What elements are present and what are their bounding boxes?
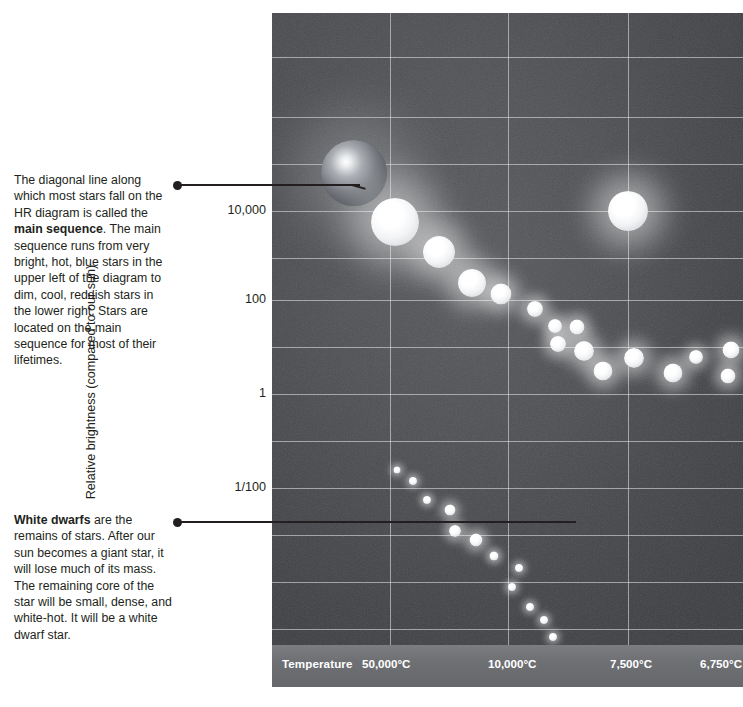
- x-axis-title: Temperature: [282, 657, 352, 670]
- star-marker: [527, 301, 543, 317]
- gridline-horizontal: [272, 117, 743, 118]
- x-axis-bar: Temperature 50,000°C10,000°C7,500°C6,750…: [272, 645, 743, 687]
- star-marker: [445, 505, 456, 516]
- star-marker: [570, 320, 585, 335]
- white-dwarf-leader-dot: [173, 518, 182, 527]
- star-marker: [608, 191, 648, 231]
- star-marker: [624, 348, 644, 368]
- main-sequence-leader-line: [180, 184, 360, 186]
- y-axis-tick-label: 100: [186, 292, 266, 306]
- star-marker: [664, 364, 683, 383]
- main-sequence-text-before: The diagonal line along which most stars…: [14, 173, 162, 220]
- y-axis-tick-label: 10,000: [186, 203, 266, 217]
- y-axis-tick-label: 1/100: [186, 480, 266, 494]
- x-axis-tick-label: 6,750°C: [700, 657, 742, 670]
- x-axis-tick-label: 7,500°C: [610, 657, 652, 670]
- white-dwarf-text-after: are the remains of stars. After our sun …: [14, 513, 172, 642]
- white-dwarf-leader-line: [180, 521, 576, 523]
- y-axis-ticks: 10,00010011/100: [186, 0, 266, 707]
- star-marker: [574, 341, 594, 361]
- gridline-horizontal: [272, 211, 743, 212]
- gridline-horizontal: [272, 488, 743, 489]
- gridline-horizontal: [272, 441, 743, 442]
- gridline-horizontal: [272, 258, 743, 259]
- star-marker: [508, 583, 516, 591]
- gridline-horizontal: [272, 629, 743, 630]
- gridline-horizontal: [272, 535, 743, 536]
- star-marker: [594, 362, 613, 381]
- star-marker: [723, 342, 740, 359]
- hr-diagram-plot-area: [272, 13, 743, 645]
- background-noise-texture: [272, 13, 743, 645]
- gridline-vertical: [390, 13, 391, 645]
- star-marker: [549, 633, 557, 641]
- star-marker: [721, 369, 736, 384]
- gridline-horizontal: [272, 394, 743, 395]
- star-marker: [449, 525, 461, 537]
- star-marker: [515, 564, 523, 572]
- gridline-horizontal: [272, 347, 743, 348]
- gridline-horizontal: [272, 57, 743, 58]
- main-sequence-leader-dot: [173, 181, 182, 190]
- star-marker: [689, 350, 703, 364]
- star-marker: [458, 269, 486, 297]
- star-marker: [548, 319, 562, 333]
- star-marker: [409, 477, 417, 485]
- x-axis-tick-label: 10,000°C: [488, 657, 536, 670]
- star-marker: [321, 140, 387, 206]
- gridline-vertical: [628, 13, 629, 645]
- y-axis-title: Relative brightness (compared to our sun…: [84, 232, 98, 532]
- star-marker: [423, 236, 455, 268]
- star-marker: [470, 534, 483, 547]
- star-marker: [526, 603, 534, 611]
- y-axis-tick-label: 1: [186, 386, 266, 400]
- star-marker: [394, 467, 401, 474]
- star-marker: [540, 616, 548, 624]
- gridline-horizontal: [272, 582, 743, 583]
- star-marker: [423, 496, 431, 504]
- star-marker: [490, 552, 499, 561]
- white-dwarf-bold-term: White dwarfs: [14, 513, 91, 527]
- star-marker: [491, 284, 512, 305]
- x-axis-tick-label: 50,000°C: [362, 657, 410, 670]
- star-marker: [550, 336, 566, 352]
- main-sequence-band: [272, 13, 743, 645]
- gridline-vertical: [508, 13, 509, 645]
- star-marker: [371, 198, 419, 246]
